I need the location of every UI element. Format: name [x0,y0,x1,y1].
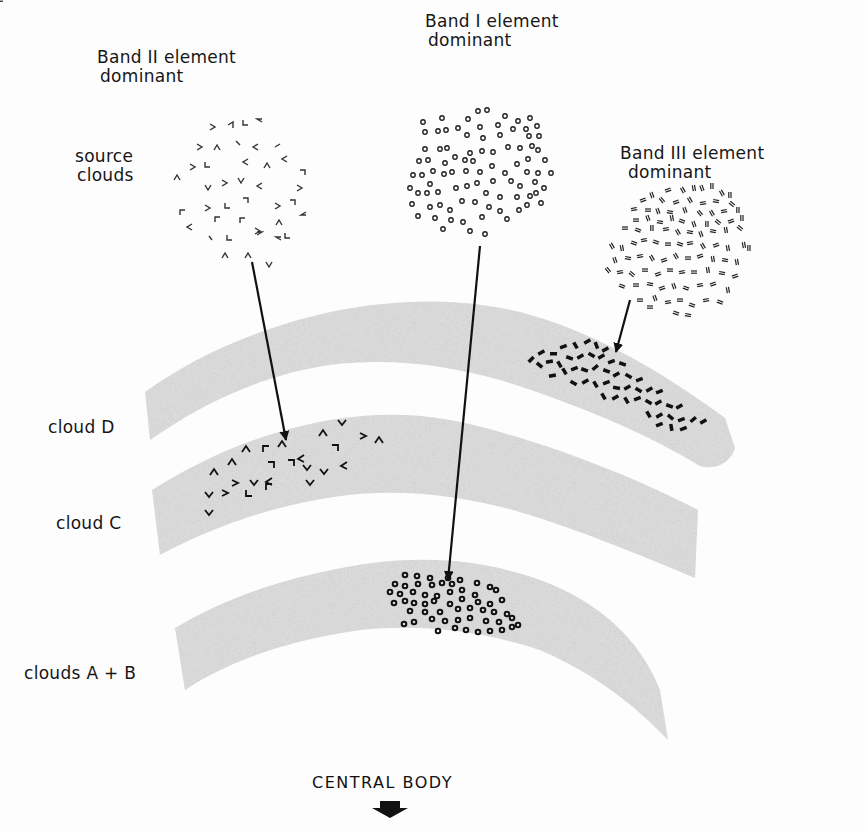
diagram-canvas [0,0,865,832]
band3-to-cloud-d-arrow [616,300,630,352]
cloud-c-band [152,415,698,578]
clouds-ab-label: clouds A + B [24,664,136,683]
band2-title-line1: Band II element [97,48,237,67]
band1-source-cloud [408,108,553,236]
band1-title-line2: dominant [425,31,575,50]
band3-title-wrap: Band III element dominant [620,144,840,182]
down-arrow-icon [372,801,408,818]
cloud-c-label: cloud C [56,514,121,533]
clouds-ab-band [175,560,668,740]
band2-source-cloud [174,119,306,267]
arrows [252,246,630,580]
band2-title-line2: dominant [97,67,237,86]
source-clouds-line1: source [75,147,175,166]
source-clouds-line2: clouds [75,166,175,185]
central-body-label: CENTRAL BODY [312,773,453,792]
source-clouds-label: source clouds [75,147,175,185]
band1-to-clouds-ab-arrow [448,246,480,580]
band1-title-line1: Band I element [425,12,575,31]
cloud-d-label: cloud D [48,418,115,437]
band3-title-line1: Band III element [620,144,840,163]
band2-title-wrap: Band II element dominant [97,48,237,86]
band3-title-line2: dominant [620,163,840,182]
band1-title-wrap: Band I element dominant [425,12,575,50]
